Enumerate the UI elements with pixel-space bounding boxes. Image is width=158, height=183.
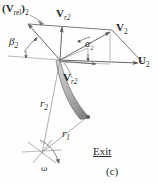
label-relative-velocity-top: Vr2: [56, 8, 70, 22]
label-u2-sub: 2: [146, 61, 150, 69]
label-blade-velocity-2: U2: [138, 55, 150, 69]
label-alpha2-sub: 2: [90, 44, 93, 51]
label-beta2-sub: 2: [14, 42, 18, 50]
horizontal-reference-line: [8, 56, 60, 60]
figure-caption: (c): [106, 166, 118, 177]
label-v2-sub: 2: [124, 28, 128, 36]
label-vr2-bot-main: V: [63, 71, 71, 83]
omega-rotation-arrow: [40, 140, 60, 164]
label-beta-angle-2: β2: [9, 36, 18, 50]
label-relative-velocity-2: (Vrel)2: [2, 3, 29, 17]
figure-drawing: [0, 0, 158, 183]
label-r2-sub: 2: [44, 104, 48, 112]
label-alpha-angle-2: α2: [85, 39, 94, 52]
label-r1-sub: 1: [66, 134, 70, 142]
label-exit-station: Exit: [93, 146, 111, 157]
label-v2-main: V: [116, 21, 124, 33]
label-angular-velocity: ω: [41, 164, 47, 173]
label-u2-main: U: [138, 54, 146, 66]
beta-angle-arc: [24, 37, 38, 59]
label-vrel2-main: (V: [2, 2, 14, 14]
label-vr2-top-main: V: [56, 7, 64, 19]
label-vr2-top-sub: r2: [64, 14, 70, 22]
label-radius-1: r1: [62, 128, 70, 142]
label-radius-2: r2: [40, 98, 48, 112]
impeller-blade: [56, 60, 90, 119]
label-absolute-velocity-2: V2: [116, 22, 128, 36]
label-vrel2-sub-2: 2: [25, 9, 29, 17]
label-vr2-bot-sub: r2: [71, 78, 77, 86]
velocity-triangle-figure: (Vrel)2 Vr2 V2 U2 Vr2 β2 α2 r2 r1 ω Exit…: [0, 0, 158, 183]
label-relative-velocity-bottom: Vr2: [63, 72, 77, 86]
